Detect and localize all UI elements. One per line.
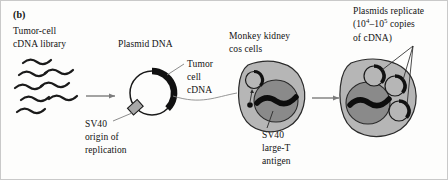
cdna-library-strands <box>15 60 77 113</box>
leader-plasmid-to-cell <box>173 93 237 100</box>
arrow-cell-to-replicated <box>312 95 339 100</box>
replicated-plasmid-3 <box>389 101 409 121</box>
leader-sv40-origin <box>113 113 132 121</box>
diagram-artwork <box>1 1 448 180</box>
plasmid-dna-figure <box>113 64 237 121</box>
replicated-plasmid-1 <box>364 66 384 86</box>
vesicle-dot <box>247 102 253 108</box>
cos-cell-figure <box>239 61 305 131</box>
plasmid-cdna-insert <box>152 71 174 109</box>
leader-tumor-cdna <box>167 64 184 75</box>
arrow-library-to-plasmid <box>86 93 115 98</box>
figure-panel: (b) Tumor-cell cDNA library Plasmid DNA … <box>0 0 448 180</box>
replicated-plasmid-2 <box>385 76 405 96</box>
replicated-cell-figure <box>340 46 416 136</box>
